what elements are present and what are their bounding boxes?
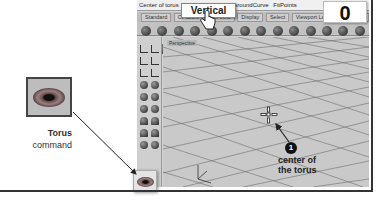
truncated-pyramid-icon[interactable] (151, 129, 159, 137)
command-prompt: Center of torus (139, 2, 179, 8)
zoom-icon[interactable] (322, 26, 332, 36)
tab-display[interactable]: Display (237, 13, 263, 22)
torus-icon (33, 88, 65, 107)
redo-icon[interactable] (273, 26, 283, 36)
torus-command-subtitle: command (0, 140, 72, 150)
pyramid-icon[interactable] (140, 129, 148, 137)
cylinder-icon[interactable] (140, 105, 148, 113)
sphere-icon[interactable] (140, 93, 148, 101)
box-icon[interactable] (140, 81, 148, 89)
frame-border-bottom (0, 190, 373, 192)
tab-select[interactable]: Select (266, 13, 289, 22)
freeform-icon[interactable] (151, 69, 159, 77)
step-count-value: 0 (339, 2, 350, 24)
ellipsoid-2-icon[interactable] (151, 141, 159, 149)
curve-icon[interactable] (140, 69, 148, 77)
tab-standard[interactable]: Standard (141, 13, 171, 22)
pan-icon[interactable] (289, 26, 299, 36)
paraboloid-icon[interactable] (140, 141, 148, 149)
cone-icon[interactable] (140, 117, 148, 125)
crosshair-cursor-icon (260, 106, 278, 124)
paste-icon[interactable] (240, 26, 250, 36)
hand-pointer-icon (199, 10, 217, 32)
truncated-cone-icon[interactable] (151, 117, 159, 125)
save-icon[interactable] (174, 26, 184, 36)
undo-icon[interactable] (256, 26, 266, 36)
point-icon[interactable] (151, 45, 159, 53)
polyline-icon[interactable] (140, 57, 148, 65)
copy-icon[interactable] (223, 26, 233, 36)
frame-border-right (371, 0, 373, 192)
torus-tool-button[interactable] (133, 170, 157, 192)
viewport-label[interactable]: Perspective (167, 40, 197, 46)
torus-command-icon-enlarged (26, 77, 72, 117)
cube-icon[interactable] (151, 81, 159, 89)
step-marker: 1 (285, 142, 297, 154)
open-file-icon[interactable] (157, 26, 167, 36)
zoom-window-icon[interactable] (338, 26, 348, 36)
zoom-extents-icon[interactable] (355, 26, 365, 36)
line-icon[interactable] (151, 57, 159, 65)
option-aroundcurve[interactable]: AroundCurve (233, 2, 268, 8)
select-arrow-icon[interactable] (140, 45, 148, 53)
ellipsoid-icon[interactable] (151, 93, 159, 101)
rotate-view-icon[interactable] (306, 26, 316, 36)
center-of-torus-label: center of the torus (278, 155, 328, 175)
tube-icon[interactable] (151, 105, 159, 113)
torus-command-title: Torus (0, 128, 72, 138)
rhino-window: Center of torus Vertical Tangent AroundC… (137, 0, 369, 187)
option-fitpoints[interactable]: FitPoints (273, 2, 296, 8)
step-count-box: 0 (323, 1, 367, 23)
left-toolbar (137, 37, 162, 187)
main-toolbar (137, 22, 369, 36)
torus-icon (137, 177, 154, 187)
new-file-icon[interactable] (141, 26, 151, 36)
